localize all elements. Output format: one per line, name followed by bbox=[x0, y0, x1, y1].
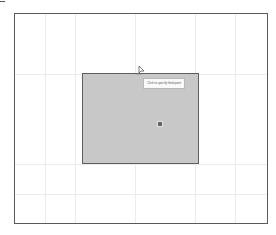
toolbar-dash bbox=[0, 1, 5, 2]
tooltip-text: Click to specify third point bbox=[147, 81, 181, 85]
grid-line bbox=[75, 14, 76, 223]
grid-line bbox=[45, 14, 46, 223]
grid-line bbox=[235, 14, 236, 223]
crosshair-cursor-icon bbox=[136, 65, 146, 75]
grid-line bbox=[15, 164, 267, 165]
grid-line bbox=[15, 194, 267, 195]
command-tooltip: Click to specify third point bbox=[143, 78, 185, 89]
snap-point-icon[interactable] bbox=[157, 121, 163, 127]
